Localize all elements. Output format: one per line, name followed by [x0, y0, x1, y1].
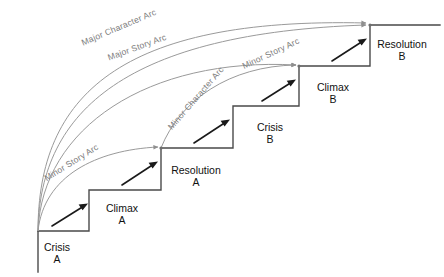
arcs-group [38, 23, 366, 231]
step-label-crisis-a: Crisis A [44, 241, 70, 265]
step-label-climax-a-name: Climax [106, 202, 139, 214]
node-dot-resolution-b [368, 23, 371, 26]
rise-arrow-3 [194, 119, 230, 143]
rise-arrow-5 [332, 38, 367, 61]
arc-label-minor-character-arc: Minor Character Arc [166, 64, 227, 131]
step-label-crisis-b-sub: B [266, 133, 273, 145]
step-label-crisis-b: Crisis B [257, 121, 283, 145]
step-label-climax-a-sub: A [118, 214, 125, 226]
node-dot-climax-b [297, 64, 300, 67]
staircase-path [38, 25, 440, 231]
rise-arrow-2 [122, 161, 158, 185]
step-label-resolution-b: Resolution B [377, 38, 427, 62]
step-label-climax-b-sub: B [329, 93, 336, 105]
step-label-climax-b-name: Climax [317, 81, 350, 93]
step-label-resolution-a-name: Resolution [171, 164, 221, 176]
step-label-resolution-a-sub: A [192, 176, 199, 188]
step-label-crisis-a-name: Crisis [44, 241, 70, 253]
minor-story-arc-1 [38, 147, 158, 231]
step-labels-group: Crisis A Climax A Resolution A Crisis B … [44, 38, 427, 265]
step-label-resolution-b-sub: B [398, 50, 405, 62]
story-arc-diagram: Crisis A Climax A Resolution A Crisis B … [0, 0, 444, 277]
step-label-climax-b: Climax B [317, 81, 350, 105]
step-label-resolution-b-name: Resolution [377, 38, 427, 50]
rise-arrow-1 [52, 203, 88, 226]
arc-labels-group: Major Character Arc Major Story Arc Mino… [43, 7, 302, 183]
rise-arrow-4 [262, 80, 296, 102]
step-label-crisis-a-sub: A [53, 253, 60, 265]
step-label-crisis-b-name: Crisis [257, 121, 283, 133]
node-dot-resolution-a [159, 146, 162, 149]
major-story-arc [38, 25, 366, 231]
step-label-resolution-a: Resolution A [171, 164, 221, 188]
step-label-climax-a: Climax A [106, 202, 139, 226]
diagram-canvas: Crisis A Climax A Resolution A Crisis B … [0, 0, 444, 277]
